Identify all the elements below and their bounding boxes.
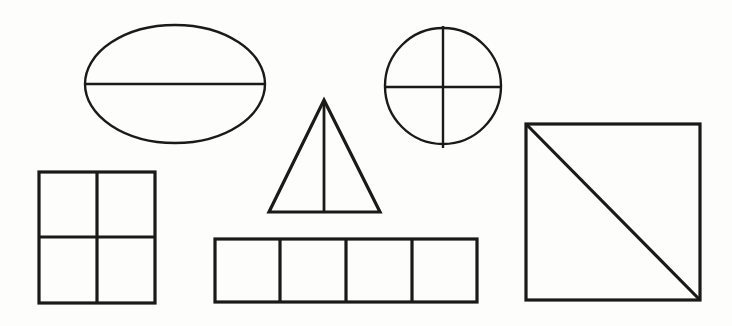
shape-rectangle-fourths xyxy=(215,239,477,302)
shape-ellipse-halves xyxy=(85,25,265,143)
big-square-divider-diagonal xyxy=(526,124,700,300)
shapes-canvas xyxy=(0,0,732,326)
shape-circle-quarters xyxy=(384,26,502,148)
shape-square-quarters xyxy=(39,172,155,303)
fraction-shapes-diagram xyxy=(0,0,732,326)
shape-big-square-diagonal-halves xyxy=(526,124,700,300)
shape-triangle-halves xyxy=(269,100,380,212)
